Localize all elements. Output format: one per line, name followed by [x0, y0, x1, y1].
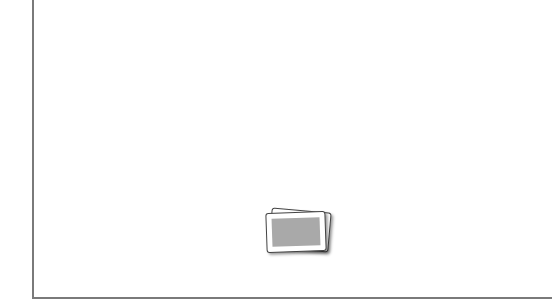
- card-back-pattern: [272, 217, 321, 247]
- frame-line-vertical: [32, 0, 34, 299]
- stock-card-top[interactable]: [265, 211, 326, 253]
- frame-line-horizontal: [32, 297, 552, 299]
- stock-pile[interactable]: [264, 208, 334, 256]
